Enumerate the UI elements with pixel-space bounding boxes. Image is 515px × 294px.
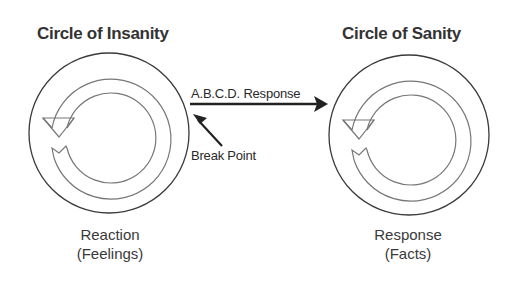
circle-of-sanity-graphic (329, 55, 489, 215)
feelings-label: (Feelings) (60, 244, 160, 263)
reaction-label: Reaction (60, 225, 160, 244)
break-point-label: Break Point (191, 148, 256, 163)
reaction-caption: Reaction (Feelings) (60, 225, 160, 263)
circle-of-sanity-title: Circle of Sanity (342, 24, 461, 44)
response-caption: Response (Facts) (358, 225, 458, 263)
break-point-arrow (193, 114, 222, 146)
response-label: Response (358, 225, 458, 244)
abcd-response-label: A.B.C.D. Response (191, 86, 300, 101)
facts-label: (Facts) (358, 244, 458, 263)
circle-of-insanity-title: Circle of Insanity (37, 24, 169, 44)
circle-of-insanity-graphic (29, 53, 189, 213)
